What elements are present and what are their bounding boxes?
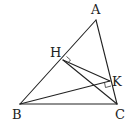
segment-hk bbox=[63, 60, 110, 81]
segment-hc bbox=[63, 60, 117, 104]
label-h: H bbox=[50, 45, 61, 60]
label-a: A bbox=[90, 2, 101, 17]
segment-bk bbox=[20, 81, 110, 104]
side-ab bbox=[20, 20, 96, 104]
triangle-figure: A B C H K bbox=[0, 0, 133, 125]
label-k: K bbox=[112, 74, 122, 89]
label-c: C bbox=[115, 107, 125, 122]
geometry-diagram: A B C H K bbox=[0, 0, 133, 125]
label-b: B bbox=[12, 107, 22, 122]
side-ca bbox=[96, 20, 117, 104]
right-angle-mark-k bbox=[105, 83, 112, 88]
